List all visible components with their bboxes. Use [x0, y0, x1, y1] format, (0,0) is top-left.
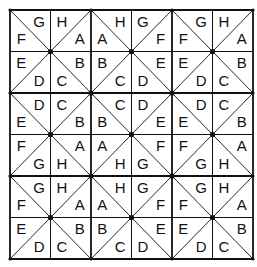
- vertex-dot: [88, 173, 93, 178]
- cell-letter: H: [218, 13, 229, 30]
- cell-letter: D: [137, 96, 148, 113]
- cell-letter: D: [137, 72, 148, 89]
- cell-letter: F: [156, 137, 165, 154]
- cell-letter: E: [16, 113, 26, 130]
- vertex-dot: [89, 257, 92, 260]
- cell-letter: G: [33, 155, 45, 172]
- cell-letter: E: [16, 54, 26, 71]
- vertex-dot: [251, 91, 254, 94]
- cell-letter: E: [178, 113, 188, 130]
- vertex-dot: [129, 132, 134, 137]
- cell-letter: H: [56, 13, 67, 30]
- cell-letter: D: [196, 238, 207, 255]
- vertex-dot: [48, 49, 53, 54]
- vertex-dot: [169, 173, 174, 178]
- cell-letter: B: [237, 54, 247, 71]
- cell-letter: A: [75, 30, 85, 47]
- vertex-dot: [8, 257, 11, 260]
- cell-letter: E: [178, 54, 188, 71]
- cell-letter: C: [115, 72, 126, 89]
- cell-letter: G: [195, 13, 207, 30]
- cell-letter: C: [56, 72, 67, 89]
- vertex-dot: [88, 90, 93, 95]
- cell-letter: F: [179, 196, 188, 213]
- vertex-dot: [8, 91, 11, 94]
- cell-letter: G: [33, 13, 45, 30]
- vertex-dot: [48, 215, 53, 220]
- cell-letter: C: [56, 96, 67, 113]
- cell-letter: F: [179, 30, 188, 47]
- cell-letter: G: [195, 179, 207, 196]
- vertex-dot: [251, 174, 254, 177]
- cell-letter: H: [115, 155, 126, 172]
- cell-letter: B: [237, 113, 247, 130]
- vertex-dot: [210, 49, 215, 54]
- cell-letter: A: [97, 30, 107, 47]
- cell-letter: E: [156, 113, 166, 130]
- vertex-dot: [129, 215, 134, 220]
- cell-letter: D: [137, 238, 148, 255]
- cell-letter: B: [97, 113, 107, 130]
- cell-letter: H: [115, 13, 126, 30]
- cell-letter: A: [75, 137, 85, 154]
- cell-letter: A: [75, 196, 85, 213]
- cell-letter: D: [34, 96, 45, 113]
- vertex-dot: [170, 257, 173, 260]
- cell-letter: A: [237, 30, 247, 47]
- cell-letter: F: [17, 137, 26, 154]
- cell-letter: H: [115, 179, 126, 196]
- vertex-dot: [210, 132, 215, 137]
- cell-letter: C: [115, 238, 126, 255]
- cell-letter: H: [56, 179, 67, 196]
- cell-letter: D: [196, 72, 207, 89]
- cell-letter: F: [179, 137, 188, 154]
- vertex-dot: [48, 132, 53, 137]
- cell-letter: F: [17, 30, 26, 47]
- vertex-dot: [89, 8, 92, 11]
- cell-letter: D: [34, 238, 45, 255]
- vertex-dot: [129, 49, 134, 54]
- cell-letter: C: [218, 72, 229, 89]
- cell-letter: B: [97, 54, 107, 71]
- cell-letter: E: [156, 220, 166, 237]
- cell-letter: B: [75, 113, 85, 130]
- vertex-dot: [170, 8, 173, 11]
- cell-letter: G: [137, 155, 149, 172]
- tile-puzzle-grid: GFHAHAGFGFHAEDBCBCEDEDBCDECBCBDEDECBFGAH…: [0, 0, 257, 267]
- cell-letter: C: [56, 238, 67, 255]
- vertex-dot: [210, 215, 215, 220]
- cell-letter: B: [237, 220, 247, 237]
- vertex-dot: [251, 8, 254, 11]
- cell-letter: A: [237, 196, 247, 213]
- cell-letter: F: [17, 196, 26, 213]
- vertex-dot: [8, 8, 11, 11]
- cell-letter: E: [178, 220, 188, 237]
- cell-letter: G: [195, 155, 207, 172]
- cell-letter: B: [75, 220, 85, 237]
- cell-letter: G: [137, 179, 149, 196]
- vertex-dot: [251, 257, 254, 260]
- cell-letter: H: [218, 155, 229, 172]
- cell-letter: A: [97, 137, 107, 154]
- cell-letter: D: [34, 72, 45, 89]
- cell-letter: H: [218, 179, 229, 196]
- cell-letter: B: [75, 54, 85, 71]
- cell-letter: A: [237, 137, 247, 154]
- cell-letter: A: [97, 196, 107, 213]
- cell-letter: E: [156, 54, 166, 71]
- cell-letter: C: [218, 96, 229, 113]
- cell-letter: F: [156, 196, 165, 213]
- vertex-dot: [169, 90, 174, 95]
- cell-letter: C: [218, 238, 229, 255]
- cell-letter: D: [196, 96, 207, 113]
- vertex-dot: [8, 174, 11, 177]
- cell-letter: G: [33, 179, 45, 196]
- cell-letter: F: [156, 30, 165, 47]
- cell-letter: B: [97, 220, 107, 237]
- cell-letter: H: [56, 155, 67, 172]
- cell-letter: G: [137, 13, 149, 30]
- cell-letter: E: [16, 220, 26, 237]
- cell-letter: C: [115, 96, 126, 113]
